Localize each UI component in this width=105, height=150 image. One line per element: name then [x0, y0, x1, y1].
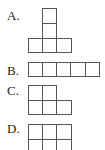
option-d-square [28, 124, 43, 140]
option-c-square [42, 85, 57, 101]
option-d-label: D. [7, 122, 20, 135]
option-a-label: A. [7, 9, 20, 22]
option-c-square [42, 100, 57, 115]
option-d-square [42, 124, 57, 140]
option-c-square [56, 100, 72, 115]
option-a-square [42, 23, 57, 39]
option-a-square [56, 38, 72, 53]
option-a-square [28, 38, 43, 53]
option-d-square [56, 124, 72, 140]
option-b-square [56, 62, 71, 77]
option-c-label: C. [7, 84, 19, 97]
option-b-label: B. [7, 64, 19, 77]
option-b-square [85, 62, 100, 77]
option-d-square [28, 139, 43, 150]
option-b-square [70, 62, 86, 77]
option-d-square [42, 139, 57, 150]
option-c-square [28, 100, 43, 115]
option-b-square [28, 62, 43, 77]
option-b-square [42, 62, 57, 77]
option-c-square [28, 85, 43, 101]
option-a-square [42, 38, 57, 53]
option-d-square [56, 139, 72, 150]
option-a-square [42, 8, 57, 24]
